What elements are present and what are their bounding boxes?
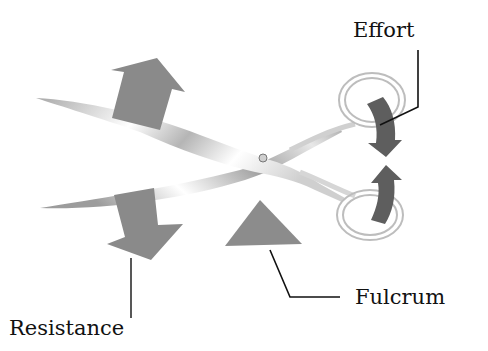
fulcrum-triangle-icon bbox=[225, 200, 302, 246]
upper-handle-shank bbox=[290, 124, 355, 150]
pivot-screw bbox=[259, 154, 267, 162]
resistance-label: Resistance bbox=[9, 318, 124, 339]
fulcrum-label: Fulcrum bbox=[355, 287, 445, 308]
fulcrum-leader-line bbox=[270, 250, 340, 297]
resistance-up-arrow-icon bbox=[111, 58, 185, 130]
top-finger-ring bbox=[339, 73, 405, 127]
scissors-lever-diagram: Effort Fulcrum Resistance bbox=[0, 0, 488, 351]
effort-label: Effort bbox=[353, 20, 414, 41]
resistance-down-arrow-icon bbox=[107, 188, 183, 260]
